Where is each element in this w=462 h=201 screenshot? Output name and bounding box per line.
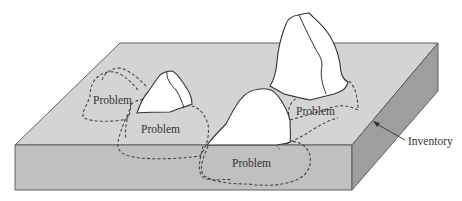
slab-front-face [15, 145, 352, 190]
problem-label-1: Problem [93, 94, 132, 106]
inventory-slab [15, 43, 438, 190]
problem-label-2: Problem [141, 123, 180, 135]
big-rock [270, 13, 348, 100]
problem-label-4: Problem [232, 157, 271, 169]
inventory-problems-diagram: Problem Problem Problem Problem Inventor… [0, 0, 462, 201]
problem-label-3: Problem [296, 105, 335, 117]
inventory-label: Inventory [408, 135, 453, 148]
